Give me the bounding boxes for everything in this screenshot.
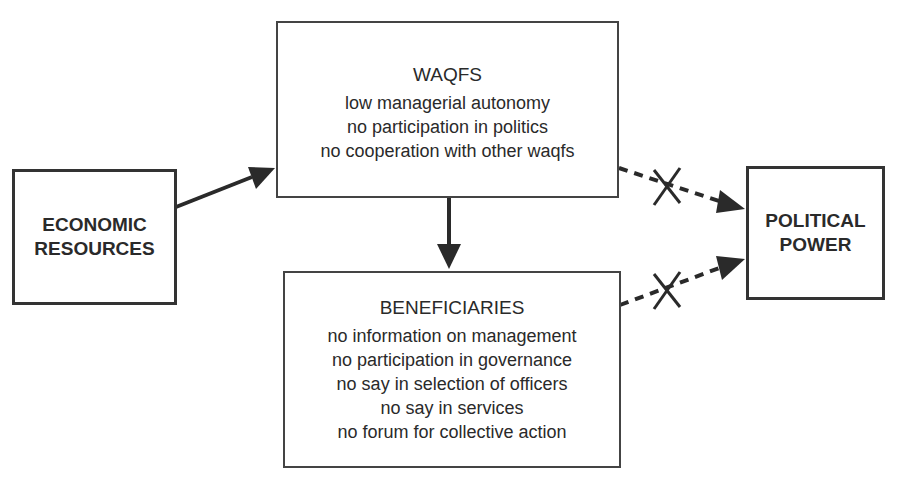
blocked-arrow-beneficiaries-to-political — [620, 256, 745, 309]
node-political-power: POLITICAL POWER — [746, 166, 885, 300]
node-economic-resources: ECONOMIC RESOURCES — [12, 169, 177, 305]
node-item: no say in selection of officers — [337, 372, 568, 396]
node-title: WAQFS — [413, 63, 482, 87]
node-waqfs: WAQFS low managerial autonomy no partici… — [276, 21, 619, 198]
node-label: ECONOMIC — [42, 213, 147, 237]
node-title: BENEFICIARIES — [380, 296, 525, 320]
node-label: POWER — [780, 233, 852, 257]
arrow-economic-to-waqfs — [176, 167, 275, 207]
node-item: no say in services — [380, 396, 523, 420]
node-item: no information on management — [327, 324, 576, 348]
node-item: no cooperation with other waqfs — [320, 139, 574, 163]
node-label: POLITICAL — [765, 209, 865, 233]
node-item: low managerial autonomy — [345, 91, 550, 115]
node-item: no forum for collective action — [337, 420, 566, 444]
arrow-waqfs-to-beneficiaries — [437, 197, 461, 269]
blocked-arrow-waqfs-to-political — [619, 168, 745, 213]
x-block-icon — [654, 168, 680, 205]
node-beneficiaries: BENEFICIARIES no information on manageme… — [283, 271, 621, 468]
node-label: RESOURCES — [34, 237, 154, 261]
node-item: no participation in politics — [347, 115, 548, 139]
node-item: no participation in governance — [332, 348, 572, 372]
